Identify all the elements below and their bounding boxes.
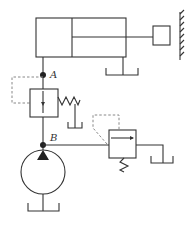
- tank-icon-pump: [28, 194, 59, 211]
- hydraulic-circuit-diagram: A B: [0, 0, 188, 227]
- arrow-right-icon: [130, 136, 134, 140]
- wall-icon: [180, 10, 184, 60]
- tank-icon-cylinder: [106, 57, 138, 75]
- spring-icon: [58, 97, 80, 105]
- pilot-line-a: [12, 77, 43, 103]
- relief-valve: [109, 130, 136, 172]
- tank-icon-valve-drain: [68, 104, 82, 128]
- sequence-valve: [30, 89, 80, 117]
- label-b: B: [49, 132, 57, 143]
- arrow-down-icon: [41, 102, 45, 106]
- pump-icon: [21, 150, 65, 194]
- tank-icon-relief: [136, 145, 173, 163]
- cylinder: [36, 18, 153, 57]
- load-block: [153, 26, 170, 45]
- relief-spring-icon: [120, 158, 128, 172]
- label-a: A: [49, 69, 57, 80]
